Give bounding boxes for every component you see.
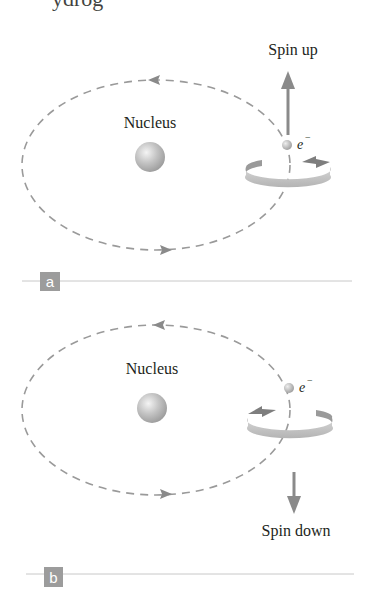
electron [282, 140, 292, 150]
electron-label: e [299, 380, 305, 395]
panel-badge-label: a [46, 273, 55, 290]
electron-charge: − [307, 375, 313, 386]
panel-badge-label: b [49, 569, 57, 586]
nucleus-sphere [135, 142, 165, 172]
spin-up-label: Spin up [268, 41, 317, 59]
panel-a: Nucleus Spin up e − a [22, 41, 352, 291]
nucleus-label: Nucleus [126, 360, 178, 377]
spin-rotation-arrow-icon [302, 156, 330, 168]
spin-ring-back [316, 410, 332, 423]
panel-b: Nucleus e − Spin down b [22, 320, 354, 587]
title-fragment: ydrog [52, 0, 103, 11]
electron-spin-diagram: ydrog Nucleus Spin up e − a Nucle [0, 0, 375, 603]
spin-ring [245, 167, 331, 187]
electron-label: e [297, 137, 303, 152]
spin-up-arrow-icon [281, 71, 295, 89]
orbit-arrow-left-icon [153, 320, 165, 330]
spin-rotation-arrow-icon [248, 406, 276, 417]
orbit-arrow-right-icon [160, 489, 172, 499]
spin-ring [247, 418, 333, 438]
spin-down-label: Spin down [262, 522, 331, 540]
nucleus-sphere [137, 393, 167, 423]
spin-down-arrow-icon [287, 496, 301, 514]
nucleus-label: Nucleus [124, 114, 176, 131]
electron-charge: − [305, 132, 311, 143]
spin-ring-back [246, 160, 262, 172]
electron [284, 383, 294, 393]
